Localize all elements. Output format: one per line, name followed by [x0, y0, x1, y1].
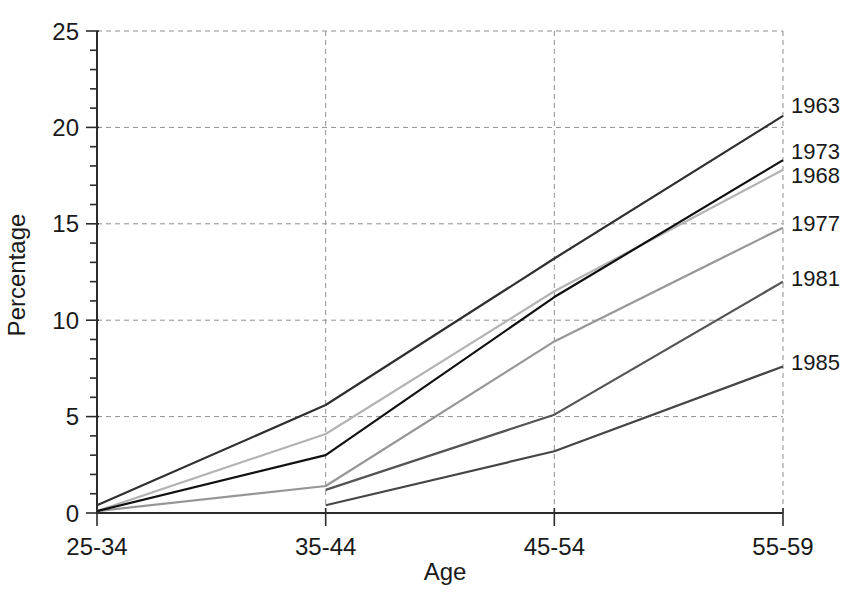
y-tick-label: 10: [52, 307, 79, 334]
x-tick-label: 35-44: [295, 533, 356, 560]
x-tick-label: 25-34: [66, 533, 127, 560]
x-axis-title: Age: [424, 558, 467, 585]
series-end-label-1973: 1973: [791, 139, 840, 164]
y-tick-label: 5: [66, 403, 79, 430]
series-line-1977: [97, 228, 783, 511]
y-tick-label: 20: [52, 114, 79, 141]
y-axis-title: Percentage: [3, 214, 30, 337]
chart-figure: 051015202525-3435-4445-5455-591963197319…: [0, 0, 858, 599]
series-end-label-1968: 1968: [791, 163, 840, 188]
y-tick-label: 25: [52, 18, 79, 45]
series-line-1963: [97, 116, 783, 505]
series-end-label-1981: 1981: [791, 266, 840, 291]
line-chart-svg: 051015202525-3435-4445-5455-591963197319…: [0, 0, 858, 599]
y-tick-label: 15: [52, 210, 79, 237]
series-end-label-1977: 1977: [791, 211, 840, 236]
x-tick-label: 55-59: [752, 533, 813, 560]
series-line-1973: [97, 160, 783, 511]
y-tick-label: 0: [66, 500, 79, 527]
x-tick-label: 45-54: [524, 533, 585, 560]
series-end-label-1963: 1963: [791, 93, 840, 118]
series-end-label-1985: 1985: [791, 350, 840, 375]
